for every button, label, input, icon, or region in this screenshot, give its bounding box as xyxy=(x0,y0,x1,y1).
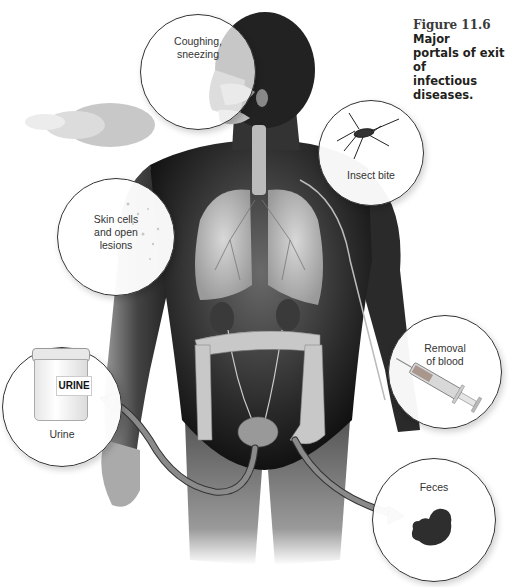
syringe-icon xyxy=(389,316,501,428)
figure-title-line1: Major xyxy=(413,32,450,46)
callout-label: Coughing,sneezing xyxy=(141,35,255,61)
callout-label: Feces xyxy=(373,481,495,494)
callout-coughing-sneezing: Coughing,sneezing xyxy=(140,14,256,130)
callout-insect-bite: Insect bite xyxy=(318,100,424,206)
callout-label: Urine xyxy=(3,428,121,441)
urine-cup-label: URINE xyxy=(56,376,92,396)
figure-title-line3: infectious diseases. xyxy=(413,74,477,102)
urine-cup-icon: URINE xyxy=(32,348,88,420)
callout-label: Removalof blood xyxy=(389,342,501,368)
callout-label: Skin cellsand openlesions xyxy=(58,213,174,252)
callout-feces: Feces xyxy=(372,458,496,582)
figure-title-line2: portals of exit of xyxy=(413,46,504,74)
mosquito-icon xyxy=(319,101,423,205)
figure-number: Figure 11.6 xyxy=(413,18,491,32)
feces-icon xyxy=(373,459,495,581)
figure-caption: Figure 11.6 Major portals of exit of inf… xyxy=(413,18,513,102)
callout-skin-cells: Skin cellsand openlesions xyxy=(57,178,175,296)
callout-removal-of-blood: Removalof blood xyxy=(388,315,502,429)
callout-label: Insect bite xyxy=(319,169,423,182)
